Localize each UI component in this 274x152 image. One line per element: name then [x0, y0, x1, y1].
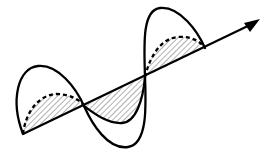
em-wave-diagram: [0, 0, 274, 152]
arrow-head-icon: [244, 19, 260, 32]
wave-svg: [0, 0, 274, 152]
propagation-axis: [23, 24, 252, 134]
solid-wave: [17, 8, 205, 147]
hatched-lobes: [23, 37, 205, 134]
hatched-lobe-1: [23, 94, 84, 134]
